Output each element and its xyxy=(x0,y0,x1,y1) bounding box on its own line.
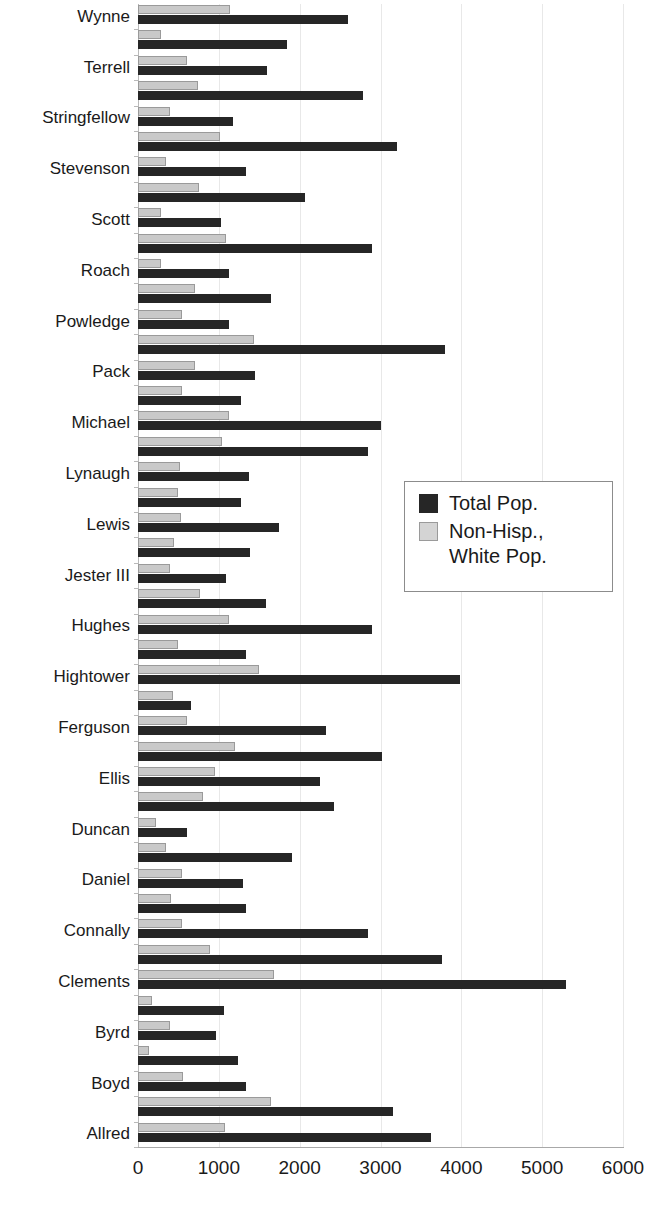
bar-group xyxy=(138,131,623,156)
bar-total-pop xyxy=(138,117,233,126)
bar-total-pop xyxy=(138,40,287,49)
bar-non-hisp-white-pop xyxy=(138,792,203,801)
bar-group xyxy=(138,791,623,816)
bar-non-hisp-white-pop xyxy=(138,970,274,979)
x-tick-label-0: 0 xyxy=(133,1156,144,1180)
bar-group xyxy=(138,106,623,131)
bar-group xyxy=(138,690,623,715)
category-label-roach: Roach xyxy=(0,262,130,279)
bar-group xyxy=(138,1071,623,1096)
bar-total-pop xyxy=(138,1107,393,1116)
bar-total-pop xyxy=(138,675,460,684)
bar-non-hisp-white-pop xyxy=(138,208,161,217)
legend-swatch-dark xyxy=(419,494,438,513)
bar-total-pop xyxy=(138,726,326,735)
bar-total-pop xyxy=(138,752,382,761)
legend-item: Non-Hisp., White Pop. xyxy=(419,519,612,569)
bar-total-pop xyxy=(138,396,241,405)
bar-non-hisp-white-pop xyxy=(138,843,166,852)
legend-label: Total Pop. xyxy=(449,491,538,516)
bar-non-hisp-white-pop xyxy=(138,615,229,624)
bar-group xyxy=(138,410,623,435)
bar-non-hisp-white-pop xyxy=(138,30,161,39)
bar-non-hisp-white-pop xyxy=(138,157,166,166)
horizontal-bar-chart: WynneTerrellStringfellowStevensonScottRo… xyxy=(0,0,645,1206)
bar-group xyxy=(138,766,623,791)
bar-non-hisp-white-pop xyxy=(138,513,181,522)
x-tick-label-4000: 4000 xyxy=(440,1156,482,1180)
bar-total-pop xyxy=(138,15,348,24)
bar-group xyxy=(138,80,623,105)
bar-non-hisp-white-pop xyxy=(138,437,222,446)
category-label-connally: Connally xyxy=(0,922,130,939)
bar-group xyxy=(138,944,623,969)
bar-total-pop xyxy=(138,244,372,253)
bar-group xyxy=(138,1020,623,1045)
category-label-ellis: Ellis xyxy=(0,770,130,787)
category-label-hightower: Hightower xyxy=(0,668,130,685)
bar-non-hisp-white-pop xyxy=(138,589,200,598)
bar-total-pop xyxy=(138,1056,238,1065)
category-label-jester-iii: Jester III xyxy=(0,567,130,584)
bar-non-hisp-white-pop xyxy=(138,894,171,903)
bar-non-hisp-white-pop xyxy=(138,107,170,116)
category-label-duncan: Duncan xyxy=(0,821,130,838)
category-label-hughes: Hughes xyxy=(0,617,130,634)
bar-non-hisp-white-pop xyxy=(138,183,199,192)
bar-group xyxy=(138,29,623,54)
legend-item: Total Pop. xyxy=(419,491,612,516)
bar-group xyxy=(138,360,623,385)
bar-non-hisp-white-pop xyxy=(138,767,215,776)
bar-group xyxy=(138,741,623,766)
bar-total-pop xyxy=(138,853,292,862)
bar-total-pop xyxy=(138,599,266,608)
bar-non-hisp-white-pop xyxy=(138,310,182,319)
bar-non-hisp-white-pop xyxy=(138,1072,183,1081)
category-label-byrd: Byrd xyxy=(0,1024,130,1041)
bar-group xyxy=(138,614,623,639)
category-label-allred: Allred xyxy=(0,1125,130,1142)
bar-non-hisp-white-pop xyxy=(138,1021,170,1030)
gridline-6000 xyxy=(623,4,624,1147)
bar-total-pop xyxy=(138,447,368,456)
bar-group xyxy=(138,283,623,308)
bar-group xyxy=(138,1045,623,1070)
bar-non-hisp-white-pop xyxy=(138,1097,271,1106)
bar-total-pop xyxy=(138,371,255,380)
bar-total-pop xyxy=(138,929,368,938)
bar-total-pop xyxy=(138,193,305,202)
bar-total-pop xyxy=(138,269,229,278)
category-label-stringfellow: Stringfellow xyxy=(0,109,130,126)
bar-non-hisp-white-pop xyxy=(138,81,198,90)
bar-non-hisp-white-pop xyxy=(138,361,195,370)
chart-legend: Total Pop.Non-Hisp., White Pop. xyxy=(404,481,613,592)
bar-total-pop xyxy=(138,802,334,811)
bar-group xyxy=(138,436,623,461)
x-tick-label-2000: 2000 xyxy=(279,1156,321,1180)
bar-non-hisp-white-pop xyxy=(138,56,187,65)
bar-group xyxy=(138,233,623,258)
category-label-lynaugh: Lynaugh xyxy=(0,465,130,482)
category-label-clements: Clements xyxy=(0,973,130,990)
bar-group xyxy=(138,817,623,842)
bar-group xyxy=(138,918,623,943)
bar-total-pop xyxy=(138,904,246,913)
bar-total-pop xyxy=(138,1006,224,1015)
category-label-michael: Michael xyxy=(0,414,130,431)
category-label-powledge: Powledge xyxy=(0,313,130,330)
bar-total-pop xyxy=(138,548,250,557)
bar-total-pop xyxy=(138,828,187,837)
bar-non-hisp-white-pop xyxy=(138,5,230,14)
bar-total-pop xyxy=(138,955,442,964)
bar-non-hisp-white-pop xyxy=(138,1046,149,1055)
category-label-boyd: Boyd xyxy=(0,1075,130,1092)
x-tick-label-1000: 1000 xyxy=(198,1156,240,1180)
bar-total-pop xyxy=(138,91,363,100)
bar-non-hisp-white-pop xyxy=(138,665,259,674)
category-label-daniel: Daniel xyxy=(0,871,130,888)
bar-non-hisp-white-pop xyxy=(138,462,180,471)
category-label-scott: Scott xyxy=(0,211,130,228)
bar-total-pop xyxy=(138,498,241,507)
bar-total-pop xyxy=(138,320,229,329)
bar-total-pop xyxy=(138,1031,216,1040)
